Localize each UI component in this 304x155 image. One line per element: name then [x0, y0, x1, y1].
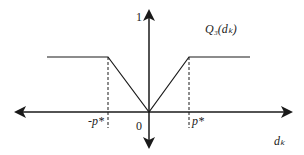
x-axis-label: dₖ [274, 134, 285, 149]
origin-label: 0 [136, 119, 142, 134]
y-axis-label: Q₃(dₖ) [205, 22, 237, 37]
pos-threshold-label: p* [192, 114, 204, 129]
piecewise-function-diagram [0, 0, 304, 155]
neg-threshold-label: -p* [88, 114, 104, 129]
y-tick-label: 1 [136, 10, 142, 25]
